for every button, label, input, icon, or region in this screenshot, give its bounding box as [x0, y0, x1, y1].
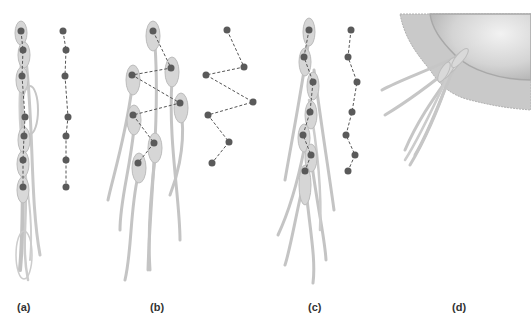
panel-label-c: (c) — [308, 301, 321, 313]
panel-d-egg-binding — [382, 14, 531, 165]
panel-label-b: (b) — [150, 301, 164, 313]
panel-b-sperm-group — [108, 21, 188, 280]
panel-a-schematic — [60, 28, 72, 191]
panel-label-a: (a) — [17, 301, 30, 313]
panel-label-d: (d) — [452, 301, 466, 313]
panel-b-schematic — [203, 27, 257, 167]
panel-c-schematic — [343, 27, 361, 175]
panel-a-sperm-train — [15, 21, 40, 280]
sperm-motility-diagram — [0, 0, 531, 330]
